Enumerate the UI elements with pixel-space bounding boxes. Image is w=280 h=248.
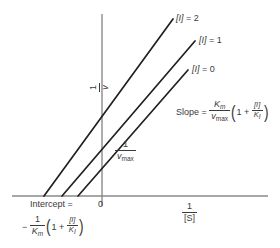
series-label-i0: [I] = 0 [192, 65, 215, 74]
y-intercept-denominator: vmax [115, 151, 136, 162]
intercept-inner-ki-sub: I [74, 227, 76, 234]
x-axis-label: 1 [S] [182, 203, 197, 225]
series-label-i2-value: 2 [194, 13, 199, 23]
slope-den-v-sub: max [216, 115, 228, 122]
intercept-inner-fraction: [I]KI [67, 216, 78, 235]
slope-inner-fraction: [I]KI [252, 101, 263, 120]
slope-numerator: Km [209, 99, 230, 111]
y-intercept-fraction: 1 vmax [115, 139, 136, 161]
series-label-i2-symbol: [I] [176, 13, 184, 23]
series-label-i1-value: 1 [217, 35, 222, 45]
series-label-i1-equals: = [209, 35, 214, 45]
y-axis-label: 1 v [90, 83, 112, 92]
x-axis-label-fraction: 1 [S] [182, 201, 197, 223]
series-label-i0-symbol: [I] [192, 64, 200, 74]
intercept-den-k-sub: m [38, 229, 43, 236]
series-line-i2 [44, 19, 173, 196]
slope-close-paren: ) [263, 102, 268, 122]
intercept-numerator: 1 [30, 214, 45, 225]
intercept-close-paren: ) [79, 216, 84, 236]
series-label-i1-symbol: [I] [199, 35, 207, 45]
slope-km-vmax-fraction: Kmvmax [209, 99, 230, 122]
slope-num-km-sub: m [220, 103, 225, 110]
y-intercept-label: 1 vmax [115, 141, 136, 163]
x-axis-label-denominator: [S] [182, 213, 197, 223]
intercept-open-paren: ( [46, 216, 51, 236]
slope-annotation: Slope = Kmvmax(1 + [I]KI) [176, 101, 269, 124]
series-label-i0-value: 0 [210, 64, 215, 74]
slope-inner-ki-sub: I [259, 113, 261, 120]
slope-inner-denominator: KI [252, 111, 263, 120]
intercept-prefix-label: Intercept = [30, 200, 73, 209]
y-intercept-numerator: 1 [115, 139, 136, 150]
slope-open-paren: ( [231, 102, 236, 122]
series-label-i0-equals: = [202, 64, 207, 74]
intercept-denominator: Km [30, 226, 45, 237]
intercept-km-fraction: 1Km [30, 214, 45, 236]
intercept-expression: − 1Km(1 + [I]KI) [22, 216, 84, 238]
x-axis-label-numerator: 1 [182, 201, 197, 212]
series-label-i1: [I] = 1 [199, 36, 222, 45]
slope-denominator: vmax [209, 111, 230, 122]
series-label-i2: [I] = 2 [176, 14, 199, 23]
lineweaver-burk-figure: [I] = 2 [I] = 1 [I] = 0 1 v Slope = Kmvm… [0, 0, 280, 248]
intercept-inner-denominator: KI [67, 226, 78, 235]
series-label-i2-equals: = [186, 13, 191, 23]
slope-prefix: Slope = [176, 108, 207, 117]
y-axis-label-denominator: v [100, 83, 110, 92]
y-intercept-v-sub: max [122, 154, 134, 161]
y-axis-label-numerator: 1 [88, 83, 99, 92]
y-axis-label-fraction: 1 v [88, 83, 110, 92]
origin-label: 0 [98, 200, 103, 209]
